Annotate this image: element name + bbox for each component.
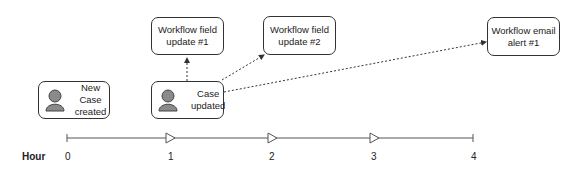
action-wf-field-2: Workflow field update #2 [263,16,336,55]
axis-label: Hour [22,151,45,162]
action-label: Workflow field update #1 [158,24,217,48]
action-wf-field-1: Workflow field update #1 [151,17,224,55]
tick-label: 3 [371,151,377,162]
action-wf-email-1: Workflow email alert #1 [487,17,560,56]
user-icon [44,88,66,112]
tick-label: 0 [65,151,71,162]
event-new-case: New Case created [38,81,110,119]
user-icon [157,88,179,112]
event-case-updated: Case updated [151,81,224,119]
event-label: Case updated [191,88,225,112]
tick-label: 4 [471,151,477,162]
tick-label: 1 [168,151,174,162]
action-label: Workflow email alert #1 [491,25,555,49]
event-label: New Case created [72,82,109,118]
action-label: Workflow field update #2 [270,24,329,48]
tick-label: 2 [269,151,275,162]
